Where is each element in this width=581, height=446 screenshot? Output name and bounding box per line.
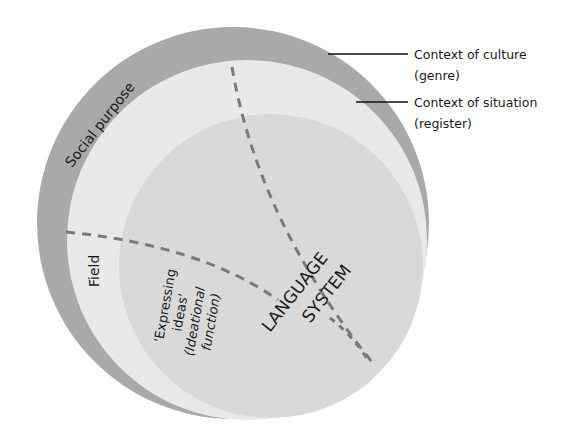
language-system-circle bbox=[119, 114, 423, 418]
culture-label-1: Context of culture bbox=[414, 47, 527, 62]
situation-label-1: Context of situation bbox=[414, 95, 537, 110]
situation-label-2: (register) bbox=[414, 116, 472, 131]
culture-label-2: (genre) bbox=[414, 68, 460, 83]
register-genre-diagram: Context of culture (genre) Context of si… bbox=[0, 0, 581, 446]
field-label: Field bbox=[86, 255, 102, 287]
